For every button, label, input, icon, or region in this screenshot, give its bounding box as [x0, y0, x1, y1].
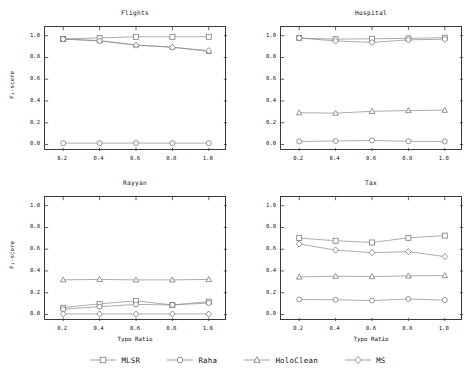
chart-legend: MLSRRahaHoloCleanMS	[0, 354, 475, 366]
legend-label: HoloClean	[275, 356, 318, 365]
x-tick-label: 0.2	[293, 325, 303, 331]
series-layer	[281, 197, 463, 321]
legend-marker-triangle-icon	[243, 354, 271, 366]
series-mlsr	[297, 233, 448, 245]
legend-label: MS	[376, 356, 386, 365]
x-tick-label: 0.4	[330, 325, 340, 331]
y-tick-label: 0.4	[256, 267, 276, 273]
legend-marker-diamond-icon	[344, 354, 372, 366]
legend-item-holoclean[interactable]: HoloClean	[243, 354, 318, 366]
y-tick-label: 0.8	[256, 223, 276, 229]
legend-label: MLSR	[121, 356, 140, 365]
y-tick-label: 0.2	[256, 289, 276, 295]
legend-marker-circle-icon	[166, 354, 194, 366]
legend-marker-square-icon	[89, 354, 117, 366]
x-axis-label: Typo Ratio	[280, 336, 462, 342]
x-tick-label: 0.8	[402, 325, 412, 331]
legend-item-ms[interactable]: MS	[344, 354, 386, 366]
plot-area	[280, 196, 462, 320]
legend-item-mlsr[interactable]: MLSR	[89, 354, 140, 366]
series-holoclean	[296, 273, 447, 279]
y-tick-label: 0.6	[256, 245, 276, 251]
figure-canvas: Flights0.00.20.40.60.81.00.20.40.60.81.0…	[0, 0, 475, 376]
chart-panel-tax: Tax0.00.20.40.60.81.00.20.40.60.81.0Typo…	[0, 0, 475, 376]
y-tick-label: 1.0	[256, 202, 276, 208]
series-raha	[297, 297, 448, 304]
legend-label: Raha	[198, 356, 217, 365]
x-tick-label: 0.6	[366, 325, 376, 331]
y-tick-label: 0.0	[256, 310, 276, 316]
x-tick-label: 1.0	[439, 325, 449, 331]
legend-item-raha[interactable]: Raha	[166, 354, 217, 366]
panel-title: Tax	[280, 179, 462, 186]
